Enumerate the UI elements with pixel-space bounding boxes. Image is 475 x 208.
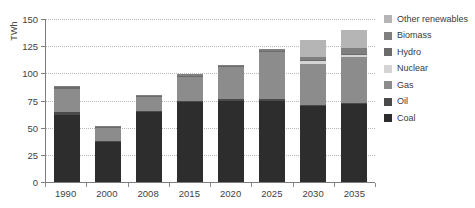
- bars-layer: [46, 19, 375, 182]
- bar-column: [95, 19, 121, 182]
- bar-segment: [95, 142, 121, 182]
- bar-column: [341, 19, 367, 182]
- bar-segment: [95, 128, 121, 141]
- bar-column: [136, 19, 162, 182]
- x-tick-mark: [128, 183, 129, 187]
- legend-item[interactable]: Coal: [384, 110, 475, 127]
- y-tick-label: 50: [27, 122, 38, 133]
- x-tick-mark: [45, 183, 46, 187]
- x-tick-label: 2015: [176, 188, 202, 204]
- x-tick-mark: [210, 183, 211, 187]
- x-tick-label: 2020: [218, 188, 244, 204]
- bar-column: [177, 19, 203, 182]
- y-tick-mark: [41, 73, 45, 74]
- plot-area: 0255075100125150: [45, 19, 375, 183]
- bar-segment: [300, 40, 326, 57]
- chart-legend: Other renewablesBiomassHydroNuclearGasOi…: [384, 11, 475, 127]
- legend-swatch-icon: [384, 98, 392, 106]
- y-axis-title: TWh: [9, 11, 19, 51]
- legend-label: Hydro: [397, 48, 421, 57]
- y-tick-label: 125: [22, 41, 38, 52]
- x-tick-mark: [375, 183, 376, 187]
- bar-segment: [341, 57, 367, 103]
- y-tick-label: 25: [27, 149, 38, 160]
- y-tick-mark: [41, 155, 45, 156]
- legend-swatch-icon: [384, 114, 392, 122]
- x-tick-mark: [86, 183, 87, 187]
- x-axis-labels: 19902000200820152020202520302035: [45, 188, 375, 204]
- legend-item[interactable]: Hydro: [384, 44, 475, 61]
- bar-segment: [218, 101, 244, 183]
- legend-swatch-icon: [384, 65, 392, 73]
- bar-segment: [136, 112, 162, 182]
- x-tick-label: 2000: [94, 188, 120, 204]
- bar-segment: [300, 106, 326, 182]
- legend-label: Biomass: [397, 31, 432, 40]
- x-tick-label: 2008: [135, 188, 161, 204]
- bar-segment: [341, 30, 367, 48]
- x-tick-label: 2030: [300, 188, 326, 204]
- bar-segment: [54, 89, 80, 113]
- bar-segment: [177, 77, 203, 101]
- y-tick-mark: [41, 101, 45, 102]
- legend-label: Gas: [397, 81, 414, 90]
- bar-segment: [218, 67, 244, 100]
- legend-label: Other renewables: [397, 15, 468, 24]
- legend-label: Oil: [397, 97, 408, 106]
- y-tick-mark: [41, 128, 45, 129]
- legend-label: Nuclear: [397, 64, 428, 73]
- x-tick-mark: [251, 183, 252, 187]
- legend-swatch-icon: [384, 15, 392, 23]
- legend-item[interactable]: Nuclear: [384, 61, 475, 78]
- legend-label: Coal: [397, 114, 416, 123]
- y-tick-label: 75: [27, 95, 38, 106]
- bar-segment: [300, 64, 326, 105]
- x-tick-mark: [293, 183, 294, 187]
- legend-item[interactable]: Other renewables: [384, 11, 475, 28]
- y-tick-mark: [41, 19, 45, 20]
- bar-segment: [54, 115, 80, 182]
- legend-swatch-icon: [384, 32, 392, 40]
- bar-segment: [177, 102, 203, 182]
- bar-column: [300, 19, 326, 182]
- x-tick-label: 2035: [341, 188, 367, 204]
- bar-column: [259, 19, 285, 182]
- y-tick-label: 150: [22, 14, 38, 25]
- legend-item[interactable]: Biomass: [384, 28, 475, 45]
- y-tick-label: 0: [33, 177, 38, 188]
- x-tick-label: 1990: [53, 188, 79, 204]
- stacked-bar-chart: TWh 0255075100125150 1990200020082015202…: [0, 0, 475, 208]
- y-tick-mark: [41, 46, 45, 47]
- bar-segment: [136, 97, 162, 111]
- x-tick-mark: [334, 183, 335, 187]
- bar-segment: [259, 101, 285, 183]
- bar-segment: [259, 52, 285, 100]
- bar-column: [54, 19, 80, 182]
- legend-swatch-icon: [384, 48, 392, 56]
- legend-item[interactable]: Oil: [384, 94, 475, 111]
- y-tick-label: 100: [22, 68, 38, 79]
- bar-segment: [341, 104, 367, 182]
- x-tick-mark: [169, 183, 170, 187]
- legend-swatch-icon: [384, 81, 392, 89]
- bar-column: [218, 19, 244, 182]
- legend-item[interactable]: Gas: [384, 77, 475, 94]
- x-tick-label: 2025: [259, 188, 285, 204]
